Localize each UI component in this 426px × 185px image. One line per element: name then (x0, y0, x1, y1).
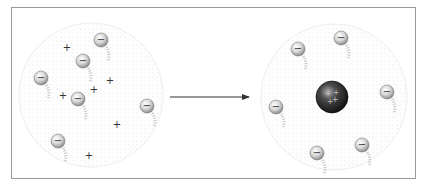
proton-charge-symbol: + (90, 84, 98, 95)
thomson-model: ++++++ −−−−−− (19, 23, 163, 167)
electron-charge-symbol: − (337, 32, 345, 43)
electron-charge-symbol: − (79, 55, 87, 66)
nucleus-proton-symbol: + (327, 97, 334, 106)
nucleus-proton-symbol: + (333, 88, 340, 97)
electron-charge-symbol: − (97, 34, 105, 45)
positive-charge-cloud (19, 23, 163, 167)
electron-charge-symbol: − (383, 86, 391, 97)
proton-charge-symbol: + (106, 75, 114, 86)
electron-charge-symbol: − (54, 135, 62, 146)
proton-charge-symbol: + (63, 42, 71, 53)
electron-charge-symbol: − (37, 72, 45, 83)
rutherford-model: ++++ −−−−−− (261, 24, 407, 174)
electron-charge-symbol: − (272, 101, 280, 112)
atom-model-diagram: ++++++ −−−−−− ++++ −−−−−− (0, 0, 426, 185)
electron-charge-symbol: − (313, 147, 321, 158)
electron-charge-symbol: − (358, 139, 366, 150)
proton-charge-symbol: + (59, 90, 67, 101)
proton-charge-symbol: + (85, 150, 93, 161)
electron-charge-symbol: − (143, 100, 151, 111)
electron-charge-symbol: − (74, 93, 82, 104)
proton-charge-symbol: + (113, 119, 121, 130)
electron-charge-symbol: − (294, 43, 302, 54)
nucleus: ++++ (316, 81, 348, 113)
